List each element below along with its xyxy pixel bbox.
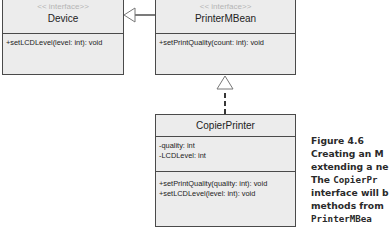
attribute: -quality: int bbox=[159, 141, 292, 151]
method: +setLCDLevel(level: int): void bbox=[6, 38, 120, 48]
method: +setLCDLevel(level: int): void bbox=[159, 189, 292, 199]
class-name: PrinterMBean bbox=[156, 12, 295, 25]
attribute: -LCDLevel: int bbox=[159, 151, 292, 161]
class-header: CopierPrinter bbox=[156, 115, 295, 137]
caption-line: Creating an M bbox=[311, 147, 391, 160]
methods-section: +setLCDLevel(level: int): void bbox=[3, 34, 123, 52]
class-copierprinter: CopierPrinter -quality: int -LCDLevel: i… bbox=[155, 114, 296, 227]
stereotype-label: << interface>> bbox=[3, 0, 123, 12]
figure-number: Figure 4.6 bbox=[311, 134, 391, 147]
class-header: << interface>> Device bbox=[3, 0, 123, 34]
caption-line: methods from bbox=[311, 199, 391, 212]
class-name: CopierPrinter bbox=[156, 119, 295, 132]
figure-caption: Figure 4.6 Creating an M extending a ne … bbox=[311, 134, 391, 225]
method: +setPrintQuality(quality: int): void bbox=[159, 179, 292, 189]
class-name: Device bbox=[3, 12, 123, 25]
method: +setPrintQuality(count: int): void bbox=[159, 38, 292, 48]
caption-code: PrinterMBea bbox=[311, 212, 391, 225]
caption-code: CopierPr bbox=[333, 174, 377, 185]
methods-section: +setPrintQuality(count: int): void bbox=[156, 34, 295, 52]
realization-arrowhead-icon bbox=[217, 76, 233, 89]
generalization-arrowhead-icon bbox=[124, 8, 135, 22]
class-device: << interface>> Device +setLCDLevel(level… bbox=[2, 0, 124, 75]
caption-line: extending a ne bbox=[311, 160, 391, 173]
methods-section: +setPrintQuality(quality: int): void +se… bbox=[156, 171, 295, 202]
caption-text: The bbox=[311, 174, 333, 185]
class-header: << interface>> PrinterMBean bbox=[156, 0, 295, 34]
attributes-section: -quality: int -LCDLevel: int bbox=[156, 137, 295, 171]
stereotype-label: << interface>> bbox=[156, 0, 295, 12]
class-printermbean: << interface>> PrinterMBean +setPrintQua… bbox=[155, 0, 296, 75]
caption-line: The CopierPr bbox=[311, 173, 391, 186]
caption-line: interface will b bbox=[311, 186, 391, 199]
